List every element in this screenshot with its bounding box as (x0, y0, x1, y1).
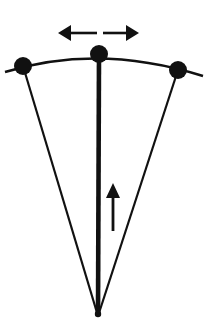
node-center (90, 45, 108, 63)
node-left (14, 57, 32, 75)
figure-root: Pendulum swing diagram A narrow triangul… (0, 0, 212, 333)
fan-line-center (98, 54, 99, 316)
pendulum-diagram-canvas (0, 0, 212, 333)
node-right (169, 61, 187, 79)
pivot-apex (95, 311, 101, 317)
